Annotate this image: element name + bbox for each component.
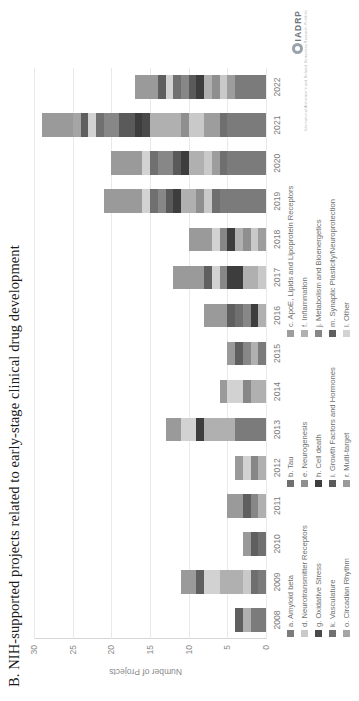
bar-segment[interactable] [166, 75, 174, 99]
bar-segment[interactable] [204, 304, 227, 328]
bar-segment[interactable] [150, 151, 158, 175]
bar-segment[interactable] [251, 494, 259, 518]
legend-item[interactable]: f. Inflammation [300, 186, 310, 337]
bar-segment[interactable] [181, 113, 189, 137]
bar-segment[interactable] [158, 151, 173, 175]
bar-segment[interactable] [243, 304, 251, 328]
bar-segment[interactable] [150, 113, 181, 137]
legend-item[interactable]: d. Neurotransmitter Receptors [300, 525, 310, 637]
bar-segment[interactable] [258, 228, 266, 252]
stacked-bar[interactable] [135, 75, 266, 99]
bar-column[interactable] [34, 189, 266, 213]
legend-item[interactable]: k. Vasculature [328, 525, 338, 637]
bar-segment[interactable] [258, 304, 266, 328]
legend-item[interactable]: b. Tau [286, 367, 296, 487]
legend-item[interactable]: r. Multi-target [342, 367, 352, 487]
bar-segment[interactable] [142, 113, 150, 137]
legend-item[interactable]: j. Metabolism and Bioenergetics [314, 186, 324, 337]
bar-segment[interactable] [196, 418, 204, 442]
stacked-bar[interactable] [104, 189, 266, 213]
bar-segment[interactable] [220, 380, 228, 404]
bar-segment[interactable] [204, 151, 212, 175]
stacked-bar[interactable] [166, 418, 266, 442]
stacked-bar[interactable] [235, 608, 266, 632]
bar-segment[interactable] [243, 342, 251, 366]
bar-segment[interactable] [189, 113, 204, 137]
bar-segment[interactable] [212, 151, 220, 175]
bar-segment[interactable] [135, 75, 158, 99]
bar-segment[interactable] [135, 113, 143, 137]
bar-segment[interactable] [104, 189, 143, 213]
bar-segment[interactable] [227, 113, 266, 137]
bar-segment[interactable] [204, 75, 212, 99]
bar-segment[interactable] [235, 456, 243, 480]
bar-segment[interactable] [81, 113, 89, 137]
bar-segment[interactable] [227, 266, 242, 290]
stacked-bar[interactable] [220, 380, 266, 404]
bar-segment[interactable] [258, 266, 266, 290]
bar-segment[interactable] [212, 228, 220, 252]
legend-item[interactable]: a. Amyloid beta [286, 525, 296, 637]
bar-segment[interactable] [227, 494, 242, 518]
bar-segment[interactable] [96, 113, 104, 137]
bar-segment[interactable] [166, 418, 181, 442]
bar-segment[interactable] [212, 189, 220, 213]
bar-segment[interactable] [150, 189, 158, 213]
bar-segment[interactable] [181, 418, 196, 442]
legend-item[interactable]: i. Growth Factors and Hormones [328, 367, 338, 487]
stacked-bar[interactable] [181, 570, 266, 594]
bar-segment[interactable] [227, 75, 235, 99]
bar-segment[interactable] [220, 228, 228, 252]
bar-segment[interactable] [189, 75, 197, 99]
bar-segment[interactable] [181, 75, 189, 99]
bar-segment[interactable] [111, 151, 142, 175]
stacked-bar[interactable] [243, 532, 266, 556]
bar-segment[interactable] [258, 494, 266, 518]
bar-segment[interactable] [235, 418, 266, 442]
stacked-bar[interactable] [173, 266, 266, 290]
stacked-bar[interactable] [235, 456, 266, 480]
bar-column[interactable] [34, 570, 266, 594]
bar-segment[interactable] [142, 189, 150, 213]
bar-segment[interactable] [73, 113, 81, 137]
bar-segment[interactable] [243, 570, 251, 594]
bar-segment[interactable] [196, 570, 204, 594]
bar-segment[interactable] [220, 570, 243, 594]
stacked-bar[interactable] [42, 113, 266, 137]
stacked-bar[interactable] [204, 304, 266, 328]
bar-segment[interactable] [258, 532, 266, 556]
bar-column[interactable] [34, 151, 266, 175]
bar-column[interactable] [34, 75, 266, 99]
bar-segment[interactable] [227, 228, 235, 252]
bar-segment[interactable] [158, 75, 166, 99]
bar-segment[interactable] [251, 608, 266, 632]
bar-segment[interactable] [142, 151, 150, 175]
bar-segment[interactable] [235, 75, 266, 99]
legend-item[interactable]: c. ApoE, Lipids and Lipoprotein Receptor… [286, 186, 296, 337]
bar-segment[interactable] [258, 456, 266, 480]
bar-column[interactable] [34, 113, 266, 137]
legend-item[interactable]: l. Other [342, 186, 352, 337]
bar-segment[interactable] [189, 228, 212, 252]
bar-segment[interactable] [181, 151, 189, 175]
bar-segment[interactable] [251, 456, 259, 480]
bar-segment[interactable] [212, 75, 220, 99]
bar-segment[interactable] [227, 342, 235, 366]
legend-item[interactable]: g. Oxidative Stress [314, 525, 324, 637]
bar-segment[interactable] [243, 494, 251, 518]
stacked-bar[interactable] [227, 342, 266, 366]
bar-segment[interactable] [243, 532, 251, 556]
bar-segment[interactable] [235, 228, 243, 252]
bar-column[interactable] [34, 266, 266, 290]
legend-item[interactable]: o. Circadian Rhythm [342, 525, 352, 637]
bar-segment[interactable] [181, 570, 196, 594]
bar-column[interactable] [34, 608, 266, 632]
bar-segment[interactable] [196, 189, 204, 213]
bar-segment[interactable] [243, 266, 258, 290]
bar-segment[interactable] [243, 456, 251, 480]
bar-segment[interactable] [204, 113, 219, 137]
bar-segment[interactable] [251, 228, 259, 252]
bar-segment[interactable] [104, 113, 119, 137]
bar-segment[interactable] [220, 151, 228, 175]
bar-column[interactable] [34, 532, 266, 556]
